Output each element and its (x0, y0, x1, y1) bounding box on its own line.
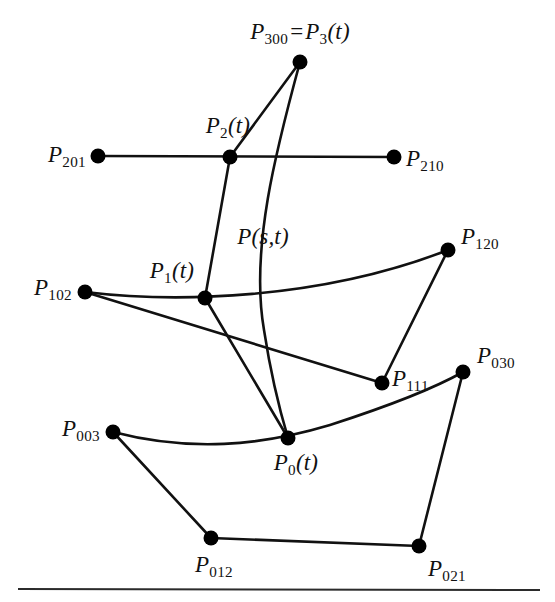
label-p210: P210 (406, 147, 444, 173)
point-p120[interactable] (441, 243, 456, 258)
label-p0t-base: P (274, 450, 288, 475)
label-p1t-base: P (150, 258, 164, 283)
edge-p102-p111 (85, 292, 382, 383)
edge-p003-p012 (113, 432, 211, 538)
label-p300-eq-p3t: P300=P3(t) (250, 20, 350, 46)
label-p012-base: P (195, 552, 209, 577)
label-p111-sub: 111 (406, 377, 429, 394)
point-p201[interactable] (91, 149, 106, 164)
label-p120: P120 (461, 225, 499, 251)
edge-p021-p030 (419, 372, 463, 546)
label-p1t: P1(t) (150, 259, 194, 285)
diagram-canvas (0, 0, 555, 602)
label-p0t-sub: 0 (288, 461, 296, 478)
point-p012[interactable] (204, 531, 219, 546)
label-p201-base: P (48, 142, 62, 167)
label-pst-base: P (237, 224, 251, 249)
label-p300-base: P (250, 19, 264, 44)
label-p012: P012 (195, 553, 233, 579)
label-p120-base: P (461, 224, 475, 249)
label-pst: P(s,t) (237, 225, 289, 248)
label-p012-sub: 012 (209, 563, 233, 580)
label-equals-sign: = (288, 19, 305, 44)
label-pst-arg: (s,t) (251, 224, 288, 249)
point-p021[interactable] (412, 539, 427, 554)
label-p2t-sub: 2 (220, 124, 228, 141)
label-p102-sub: 102 (48, 286, 72, 303)
label-p003-base: P (62, 416, 76, 441)
label-p201-sub: 201 (62, 153, 86, 170)
label-p021-sub: 021 (442, 567, 466, 584)
label-p003-sub: 003 (76, 427, 100, 444)
bezier-triangle-figure: P300=P3(t) P2(t) P201 P210 P(s,t) P120 P… (0, 0, 555, 602)
label-p0t: P0(t) (274, 451, 318, 477)
curve-pst-main (260, 62, 300, 438)
label-p111: P111 (392, 367, 429, 393)
curve-p102-p120 (85, 250, 448, 297)
point-p2t[interactable] (223, 150, 238, 165)
edge-p1t-p0t (205, 298, 288, 438)
edge-p2t-p1t (205, 157, 230, 298)
label-p120-sub: 120 (475, 235, 499, 252)
point-p030[interactable] (456, 365, 471, 380)
label-p0t-arg: (t) (296, 450, 318, 475)
point-p111[interactable] (375, 376, 390, 391)
label-p3t-base: P (305, 19, 319, 44)
label-p030-base: P (477, 343, 491, 368)
point-p0t[interactable] (281, 431, 296, 446)
label-p030-sub: 030 (491, 354, 515, 371)
point-p1t[interactable] (198, 291, 213, 306)
point-p300[interactable] (293, 55, 308, 70)
point-p210[interactable] (387, 150, 402, 165)
edge-p300-p2t (230, 62, 300, 157)
label-p2t-arg: (t) (228, 113, 250, 138)
label-p102-base: P (34, 275, 48, 300)
edge-p201-p210 (98, 156, 394, 157)
label-p030: P030 (477, 344, 515, 370)
control-polygon-edges (85, 156, 463, 546)
label-p102: P102 (34, 276, 72, 302)
edge-p012-p021 (211, 538, 419, 546)
point-p003[interactable] (106, 425, 121, 440)
label-p210-base: P (406, 146, 420, 171)
point-p102[interactable] (78, 285, 93, 300)
label-p111-base: P (392, 366, 406, 391)
label-p3t-arg: (t) (327, 19, 349, 44)
label-p210-sub: 210 (420, 157, 444, 174)
bottom-rule (18, 589, 540, 590)
label-p003: P003 (62, 417, 100, 443)
label-p2t-base: P (206, 113, 220, 138)
label-p201: P201 (48, 143, 86, 169)
label-p2t: P2(t) (206, 114, 250, 140)
control-points (78, 55, 471, 554)
label-p021: P021 (428, 557, 466, 583)
label-p1t-sub: 1 (164, 269, 172, 286)
label-p021-base: P (428, 556, 442, 581)
label-p1t-arg: (t) (172, 258, 194, 283)
label-p300-sub: 300 (264, 30, 288, 47)
